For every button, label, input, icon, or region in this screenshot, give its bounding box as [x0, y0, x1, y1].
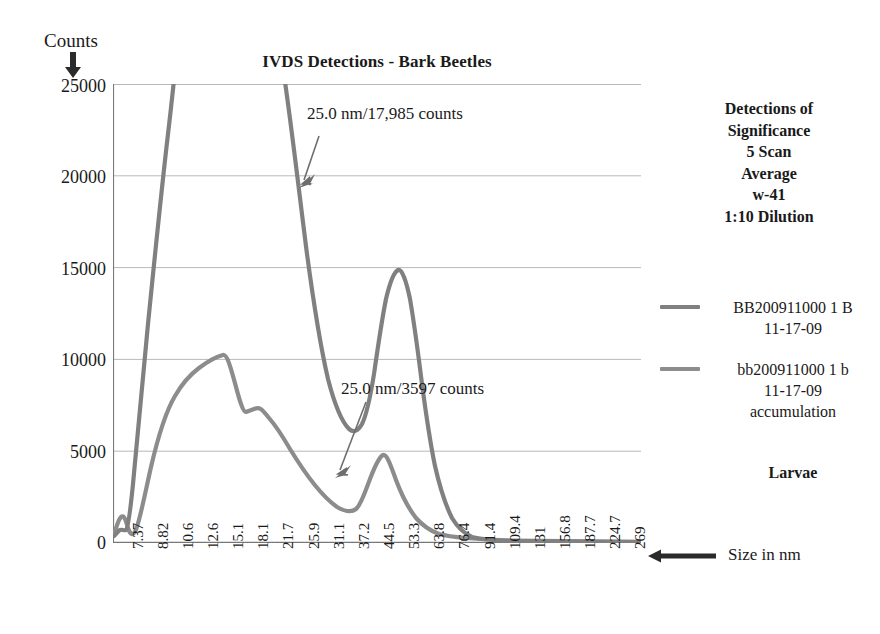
side-title-line: 1:10 Dilution [664, 206, 874, 228]
x-tick-label: 269 [620, 547, 636, 621]
x-tick-label: 53.3 [394, 547, 410, 621]
x-tick-label: 44.5 [369, 547, 385, 621]
x-tick-label-text: 53.3 [407, 523, 422, 549]
x-axis-title: Size in nm [728, 545, 801, 565]
side-panel-title: Detections of Significance 5 Scan Averag… [664, 98, 874, 227]
x-tick-label-text: 131 [533, 527, 548, 550]
x-tick-label-text: 109.4 [508, 515, 523, 549]
x-tick-label: 21.7 [268, 547, 284, 621]
x-tick-label-text: 63.8 [432, 523, 447, 549]
legend-label: bb200911000 1 b 11-17-09 accumulation [706, 359, 880, 422]
x-tick-label: 91.4 [470, 547, 486, 621]
x-tick-label: 18.1 [243, 547, 259, 621]
side-title-line: 5 Scan [664, 141, 874, 163]
y-tick-label: 25000 [36, 77, 106, 95]
y-tick-label: 5000 [36, 443, 106, 461]
legend-label-line: 11-17-09 [706, 318, 880, 339]
x-tick-label: 10.6 [168, 547, 184, 621]
x-tick-label-text: 44.5 [382, 523, 397, 549]
x-tick-label: 63.8 [419, 547, 435, 621]
plot-area [113, 84, 641, 543]
x-tick-label: 76.4 [444, 547, 460, 621]
x-tick-label: 187.7 [570, 547, 586, 621]
x-tick-label-text: 76.4 [457, 523, 472, 549]
x-tick-label-text: 37.2 [357, 523, 372, 549]
legend-label-line: accumulation [706, 401, 880, 422]
annotation-arrows [302, 136, 366, 475]
legend-label-line: bb200911000 1 b [706, 359, 880, 380]
annotation-peak-upper: 25.0 nm/17,985 counts [307, 104, 463, 124]
x-tick-label-text: 21.7 [281, 523, 296, 549]
legend-label-line: 11-17-09 [706, 380, 880, 401]
annotation-peak-lower: 25.0 nm/3597 counts [341, 379, 484, 399]
x-tick-label-text: 12.6 [206, 523, 221, 549]
x-tick-label: 8.82 [143, 547, 159, 621]
x-tick-label-text: 7.37 [131, 523, 146, 549]
legend-label: BB200911000 1 B 11-17-09 [706, 297, 880, 339]
legend-color-swatch [660, 367, 700, 371]
x-tick-label-text: 10.6 [181, 523, 196, 549]
x-tick-label: 25.9 [294, 547, 310, 621]
x-tick-label-text: 269 [633, 527, 648, 550]
x-tick-label-text: 224.7 [608, 515, 623, 549]
y-tick-label: 0 [36, 534, 106, 552]
x-tick-label-text: 156.8 [558, 515, 573, 549]
side-title-line: w-41 [664, 184, 874, 206]
x-tick-label-text: 31.1 [332, 523, 347, 549]
x-tick-label: 7.37 [118, 547, 134, 621]
chart-title: IVDS Detections - Bark Beetles [113, 52, 641, 72]
x-tick-label-text: 91.4 [483, 523, 498, 549]
chart-figure: Counts IVDS Detections - Bark Beetles 25… [0, 0, 880, 634]
x-tick-label-text: 15.1 [231, 523, 246, 549]
x-tick-label-text: 187.7 [583, 515, 598, 549]
x-axis-tick-labels: 7.378.8210.612.615.118.121.725.931.137.2… [113, 547, 641, 627]
x-tick-label: 156.8 [545, 547, 561, 621]
x-tick-label-text: 25.9 [307, 523, 322, 549]
x-tick-label: 15.1 [218, 547, 234, 621]
y-tick-label: 20000 [36, 168, 106, 186]
x-axis-title-group: Size in nm [648, 545, 880, 575]
x-tick-label: 12.6 [193, 547, 209, 621]
x-tick-label: 37.2 [344, 547, 360, 621]
side-title-line: Significance [664, 120, 874, 142]
y-tick-label: 10000 [36, 351, 106, 369]
x-tick-label: 131 [520, 547, 536, 621]
x-tick-label-text: 8.82 [156, 523, 171, 549]
legend-color-swatch [660, 305, 700, 309]
axis-lines [113, 84, 641, 543]
series-line-bb [114, 84, 640, 542]
side-title-line: Detections of [664, 98, 874, 120]
x-tick-label: 224.7 [595, 547, 611, 621]
sample-type-label: Larvae [706, 464, 880, 482]
x-tick-label: 109.4 [495, 547, 511, 621]
legend-label-line: BB200911000 1 B [706, 297, 880, 318]
x-tick-label: 31.1 [319, 547, 335, 621]
x-tick-label-text: 18.1 [256, 523, 271, 549]
plot-svg [113, 84, 641, 543]
side-title-line: Average [664, 163, 874, 185]
arrow-left-icon [648, 549, 716, 563]
y-tick-label: 15000 [36, 260, 106, 278]
side-panel: Detections of Significance 5 Scan Averag… [648, 84, 880, 594]
y-axis-tick-labels: 25000 20000 15000 10000 5000 0 [36, 0, 106, 634]
